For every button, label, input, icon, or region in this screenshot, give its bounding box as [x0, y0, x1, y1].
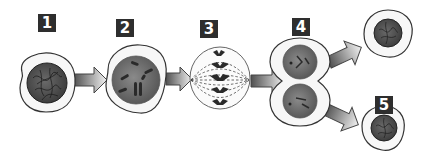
stage-label-4: 4 [292, 18, 310, 36]
stage-label-5: 5 [375, 96, 393, 114]
stage-label-2: 2 [116, 19, 134, 37]
cell-stage-1 [20, 53, 75, 112]
stage-label-3: 3 [200, 20, 218, 38]
stage-label-1: 1 [38, 14, 56, 32]
arrow-4-to-5-top [323, 36, 367, 75]
cell-stage-3 [190, 47, 250, 109]
cell-stage-5-top [364, 10, 412, 57]
arrow-1-to-2 [74, 67, 107, 93]
arrow-2-to-3 [166, 67, 192, 91]
cell-stage-2 [106, 45, 166, 113]
